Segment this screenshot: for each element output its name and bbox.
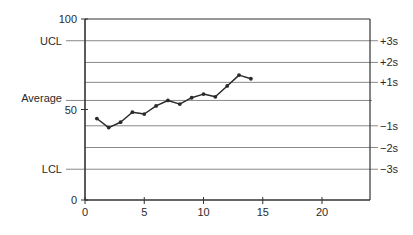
reference-label-left: UCL	[40, 35, 62, 47]
x-tick-label: 10	[197, 206, 209, 218]
x-tick-label: 0	[82, 206, 88, 218]
data-point	[178, 102, 182, 106]
y-tick-label: 100	[59, 13, 77, 25]
x-tick-label: 5	[141, 206, 147, 218]
data-point	[213, 95, 217, 99]
data-point	[95, 117, 99, 121]
data-point	[154, 104, 158, 108]
y-tick-label: 50	[65, 104, 77, 116]
sigma-label: +1s	[380, 76, 399, 88]
x-tick-label: 15	[257, 206, 269, 218]
sigma-label: −3s	[380, 163, 399, 175]
data-point	[131, 110, 135, 114]
sigma-label: −2s	[380, 142, 399, 154]
data-point	[119, 120, 123, 124]
series-line	[97, 75, 251, 128]
data-point	[249, 77, 253, 81]
sigma-label: −1s	[380, 120, 399, 132]
data-point	[190, 96, 194, 100]
y-tick-label: 0	[71, 194, 77, 206]
axes	[81, 19, 370, 204]
data-point	[142, 112, 146, 116]
x-tick-label: 20	[316, 206, 328, 218]
sigma-label: +3s	[380, 35, 399, 47]
data-series	[95, 73, 253, 129]
data-point	[237, 73, 241, 77]
data-point	[166, 99, 170, 103]
reference-label-left: LCL	[42, 163, 62, 175]
axis-labels: UCL+3s+2s+1sAverage−1s−2sLCL−3s050100051…	[21, 13, 398, 218]
data-point	[225, 84, 229, 88]
reference-lines	[66, 41, 378, 170]
data-point	[107, 126, 111, 130]
data-point	[202, 92, 206, 96]
reference-label-left: Average	[21, 92, 62, 104]
control-chart: UCL+3s+2s+1sAverage−1s−2sLCL−3s050100051…	[0, 0, 413, 235]
sigma-label: +2s	[380, 56, 399, 68]
